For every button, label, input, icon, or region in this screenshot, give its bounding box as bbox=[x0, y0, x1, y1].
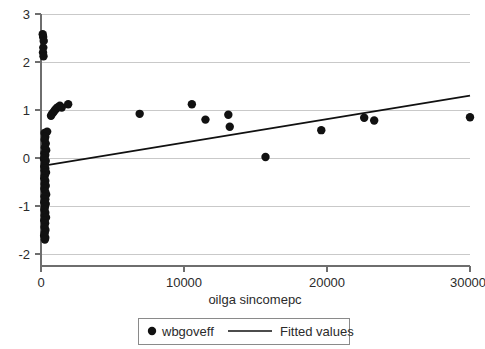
data-point bbox=[64, 100, 72, 108]
y-tick-label-neg2: -2 bbox=[18, 247, 30, 262]
y-tick-label-neg1: -1 bbox=[18, 199, 30, 214]
x-tick-label-20000: 20000 bbox=[309, 275, 345, 290]
data-point bbox=[41, 235, 49, 243]
chart-container: 3 2 1 0 -1 -2 0 10000 20000 30000 oilga … bbox=[0, 0, 485, 349]
y-tick-labels: 3 2 1 0 -1 -2 bbox=[18, 7, 30, 262]
y-tick-label-2: 2 bbox=[23, 55, 30, 70]
data-point bbox=[226, 123, 234, 131]
data-point bbox=[188, 100, 196, 108]
legend-marker-icon bbox=[148, 327, 156, 335]
scatter-plot: 3 2 1 0 -1 -2 0 10000 20000 30000 oilga … bbox=[0, 0, 485, 349]
data-point bbox=[360, 113, 368, 121]
fitted-line-segment bbox=[41, 96, 470, 167]
data-point bbox=[224, 111, 232, 119]
data-point bbox=[317, 126, 325, 134]
data-point bbox=[135, 110, 143, 118]
gridlines bbox=[41, 14, 470, 254]
y-tick-label-3: 3 bbox=[23, 7, 30, 22]
x-tick-labels: 0 10000 20000 30000 bbox=[37, 275, 485, 290]
legend: wbgoveff Fitted values bbox=[138, 318, 354, 344]
data-point bbox=[466, 113, 474, 121]
y-tick-label-0: 0 bbox=[23, 151, 30, 166]
data-point bbox=[370, 116, 378, 124]
data-point bbox=[261, 153, 269, 161]
data-point bbox=[201, 115, 209, 123]
y-tick-label-1: 1 bbox=[23, 103, 30, 118]
x-tick-label-0: 0 bbox=[37, 275, 44, 290]
x-tick-label-10000: 10000 bbox=[166, 275, 202, 290]
x-axis-ticks bbox=[41, 266, 470, 272]
legend-label-wbgoveff: wbgoveff bbox=[161, 324, 214, 339]
x-axis-title: oilga sincomepc bbox=[208, 292, 302, 307]
data-point bbox=[39, 52, 47, 60]
axis-lines bbox=[41, 14, 470, 266]
x-tick-label-30000: 30000 bbox=[450, 275, 485, 290]
legend-label-fitted-values: Fitted values bbox=[280, 324, 354, 339]
fitted-values-line bbox=[41, 96, 470, 167]
